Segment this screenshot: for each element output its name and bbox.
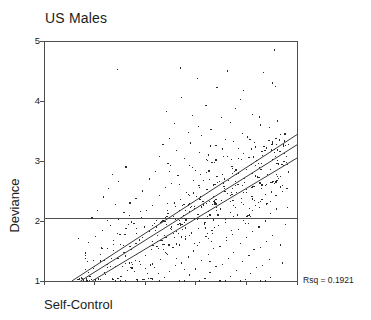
data-point	[211, 162, 212, 163]
data-point	[274, 152, 275, 153]
data-point	[249, 139, 250, 140]
data-point	[192, 115, 193, 116]
data-point	[233, 216, 234, 217]
data-point	[152, 225, 153, 226]
data-point	[212, 233, 213, 234]
data-point	[274, 183, 275, 184]
data-point	[210, 145, 211, 146]
data-point	[119, 234, 120, 235]
data-point	[194, 243, 195, 244]
data-point	[266, 241, 267, 242]
data-point	[186, 192, 187, 193]
data-point	[115, 280, 116, 281]
data-point	[255, 165, 256, 166]
data-point	[275, 181, 276, 182]
data-point	[141, 217, 142, 218]
data-point	[244, 182, 245, 183]
data-point	[241, 202, 242, 203]
data-point	[157, 235, 158, 236]
data-point	[232, 188, 233, 189]
data-point	[125, 228, 126, 229]
data-point	[171, 183, 172, 184]
data-point	[264, 150, 265, 151]
data-point	[129, 202, 130, 203]
data-point	[188, 194, 189, 195]
data-point	[162, 240, 163, 241]
data-point	[223, 156, 224, 157]
data-point	[112, 174, 113, 175]
data-point	[86, 278, 87, 279]
data-point	[154, 223, 155, 224]
data-point	[251, 187, 252, 188]
data-point	[128, 224, 129, 225]
data-point	[97, 210, 98, 211]
data-point	[246, 237, 247, 238]
data-point	[216, 87, 217, 88]
data-point	[120, 276, 121, 277]
data-point	[170, 228, 171, 229]
data-point	[131, 221, 132, 222]
regression-line-upper	[72, 135, 297, 281]
data-point	[123, 252, 124, 253]
data-point	[275, 138, 276, 139]
data-point	[85, 269, 86, 270]
data-point	[243, 192, 244, 193]
data-point	[219, 246, 220, 247]
data-point	[275, 182, 276, 183]
data-point	[125, 166, 126, 167]
data-point	[206, 172, 207, 173]
data-point	[222, 148, 223, 149]
data-point	[201, 135, 202, 136]
data-point	[260, 124, 261, 125]
data-point	[162, 144, 163, 145]
data-point	[188, 132, 189, 133]
data-point	[167, 254, 168, 255]
data-point	[241, 198, 242, 199]
data-point	[261, 199, 262, 200]
data-point	[251, 148, 252, 149]
data-point	[91, 279, 92, 280]
data-point	[194, 206, 195, 207]
data-point	[206, 203, 207, 204]
data-point	[154, 267, 155, 268]
data-point	[100, 254, 101, 255]
data-point	[261, 188, 262, 189]
data-point	[207, 216, 208, 217]
data-point	[255, 146, 256, 147]
data-point	[182, 229, 183, 230]
data-point	[231, 166, 232, 167]
data-point	[242, 185, 243, 186]
data-point	[85, 252, 86, 253]
data-point	[117, 278, 118, 279]
data-point	[164, 277, 165, 278]
data-point	[209, 261, 210, 262]
data-point	[197, 245, 198, 246]
data-point	[265, 280, 266, 281]
data-point	[272, 143, 273, 144]
data-point	[286, 156, 287, 157]
data-point	[225, 219, 226, 220]
data-point	[235, 181, 236, 182]
data-point	[88, 242, 89, 243]
data-point	[260, 280, 261, 281]
data-point	[201, 206, 202, 207]
data-point	[270, 213, 271, 214]
data-point	[107, 267, 108, 268]
data-point	[288, 171, 289, 172]
data-point	[183, 204, 184, 205]
data-point	[142, 237, 143, 238]
data-point	[185, 227, 186, 228]
data-point	[164, 221, 165, 222]
data-point	[159, 280, 160, 281]
data-point	[87, 261, 88, 262]
data-point	[184, 218, 185, 219]
data-point	[260, 201, 261, 202]
data-point	[110, 266, 111, 267]
data-point	[110, 225, 111, 226]
data-point	[142, 279, 143, 280]
data-point	[124, 234, 125, 235]
data-point	[215, 159, 216, 160]
data-point	[259, 182, 260, 183]
data-point	[167, 203, 168, 204]
data-point	[184, 280, 185, 281]
